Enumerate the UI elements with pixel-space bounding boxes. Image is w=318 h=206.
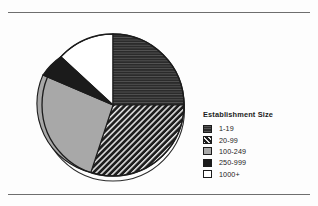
legend-label-1000plus: 1000+ bbox=[219, 170, 240, 179]
legend-swatch-diagonal-hatch-icon bbox=[203, 136, 212, 144]
legend-title: Establishment Size bbox=[203, 110, 309, 119]
legend-swatch-white-icon bbox=[203, 170, 212, 178]
legend-item-100-249: 100-249 bbox=[203, 146, 309, 157]
legend-label-20-99: 20-99 bbox=[219, 136, 238, 145]
legend-item-20-99: 20-99 bbox=[203, 134, 309, 145]
pie-slice-1-19 bbox=[113, 34, 184, 105]
pie-plot-area bbox=[36, 24, 194, 188]
legend-item-1000plus: 1000+ bbox=[203, 169, 309, 180]
legend-item-1-19: 1-19 bbox=[203, 123, 309, 134]
legend-swatch-black-icon bbox=[203, 159, 212, 167]
pie-slices bbox=[37, 34, 184, 176]
pie-chart-figure: Establishment Size 1-19 20-99 100-249 25… bbox=[0, 0, 318, 206]
legend-swatch-gray-icon bbox=[203, 147, 212, 155]
top-divider-rule bbox=[8, 12, 310, 13]
legend-item-250-999: 250-999 bbox=[203, 157, 309, 168]
legend-label-1-19: 1-19 bbox=[219, 124, 234, 133]
legend-swatch-horizontal-lines-icon bbox=[203, 125, 212, 133]
chart-legend: Establishment Size 1-19 20-99 100-249 25… bbox=[203, 110, 309, 180]
legend-label-100-249: 100-249 bbox=[219, 147, 246, 156]
pie-svg bbox=[36, 24, 194, 188]
bottom-divider-rule bbox=[8, 194, 310, 195]
legend-label-250-999: 250-999 bbox=[219, 158, 246, 167]
